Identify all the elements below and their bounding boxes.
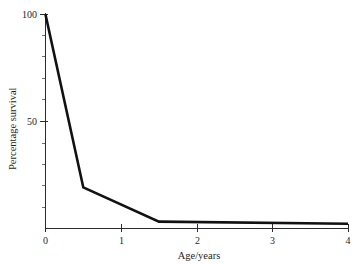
y-tick-label-100: 100 bbox=[22, 9, 37, 20]
y-tick-label-50: 50 bbox=[27, 116, 37, 127]
x-tick-label-4: 4 bbox=[346, 235, 351, 246]
x-tick-label-0: 0 bbox=[43, 235, 48, 246]
survival-curve-figure: 100 50 0 1 2 3 4 Age/years Percentage su… bbox=[0, 0, 359, 264]
x-tick-label-1: 1 bbox=[119, 235, 124, 246]
y-axis-title: Percentage survival bbox=[7, 87, 18, 170]
chart-canvas: 100 50 0 1 2 3 4 Age/years Percentage su… bbox=[0, 0, 359, 264]
x-tick-label-2: 2 bbox=[195, 235, 200, 246]
x-axis-title: Age/years bbox=[178, 250, 221, 261]
x-tick-label-3: 3 bbox=[270, 235, 275, 246]
